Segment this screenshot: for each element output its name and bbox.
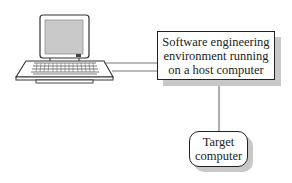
- target-computer-box: Target computer: [189, 131, 248, 167]
- target-box-line-1: Target: [203, 135, 235, 149]
- host-computer-box: Software engineering environment running…: [157, 31, 275, 80]
- host-box-line-2: environment running: [163, 49, 268, 63]
- host-box-line-1: Software engineering: [162, 35, 269, 49]
- target-box-line-2: computer: [195, 149, 242, 163]
- host-box-line-3: on a host computer: [168, 63, 263, 77]
